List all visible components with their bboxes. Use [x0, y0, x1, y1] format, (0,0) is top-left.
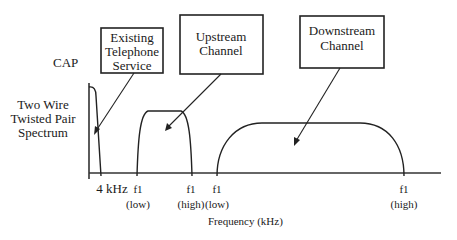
diagram-title: CAP: [53, 55, 78, 70]
tick-label-up-low: f1: [133, 183, 142, 195]
x-axis-label: Frequency (kHz): [208, 215, 283, 228]
upstream-band-curve: [137, 111, 192, 176]
tick-sub-up-low: (low): [126, 198, 150, 211]
svg-text:Telephone: Telephone: [105, 44, 159, 59]
arrow-downstream-icon: [294, 68, 340, 146]
svg-text:Two Wire: Two Wire: [17, 97, 69, 112]
svg-text:Downstream: Downstream: [309, 23, 375, 38]
svg-text:Upstream: Upstream: [196, 29, 247, 44]
callout-downstream: Downstream Channel: [300, 16, 384, 68]
tick-label-down-high: f1: [399, 183, 408, 195]
arrow-telephone-icon: [94, 73, 134, 135]
tick-sub-up-high: (high): [178, 198, 205, 211]
svg-text:Channel: Channel: [320, 38, 364, 53]
y-axis-label: Two Wire Twisted Pair Spectrum: [10, 97, 76, 140]
svg-text:Spectrum: Spectrum: [18, 125, 68, 140]
tick-label-4khz: 4 kHz: [96, 181, 128, 196]
svg-text:Channel: Channel: [199, 43, 243, 58]
svg-text:Twisted Pair: Twisted Pair: [10, 111, 76, 126]
svg-text:Service: Service: [113, 58, 152, 73]
tick-sub-down-low: (low): [205, 198, 229, 211]
svg-text:Existing: Existing: [110, 30, 154, 45]
tick-label-up-high: f1: [186, 183, 195, 195]
cap-spectrum-diagram: CAP Two Wire Twisted Pair Spectrum Exist…: [0, 0, 457, 240]
callout-telephone: Existing Telephone Service: [101, 28, 163, 73]
callout-upstream: Upstream Channel: [180, 15, 263, 74]
arrow-upstream-icon: [165, 74, 221, 131]
tick-label-down-low: f1: [212, 183, 221, 195]
downstream-band-curve: [217, 123, 404, 176]
tick-sub-down-high: (high): [391, 198, 418, 211]
